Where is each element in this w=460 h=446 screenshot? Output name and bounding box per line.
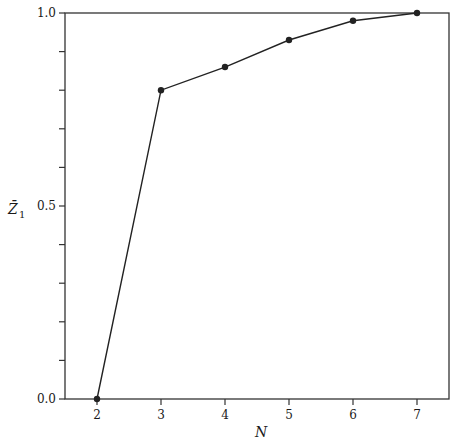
data-point-marker	[350, 18, 356, 24]
y-axis-label-main: Z̄	[7, 200, 18, 217]
data-point-marker	[158, 87, 164, 93]
x-tick-label: 4	[221, 408, 229, 422]
y-axis-label: Z̄ 1	[7, 200, 25, 220]
data-point-marker	[222, 64, 228, 70]
data-series	[94, 10, 420, 402]
data-point-marker	[286, 37, 292, 43]
series-line	[97, 13, 417, 399]
plot-frame	[65, 13, 449, 399]
x-tick-label: 3	[157, 408, 165, 422]
x-axis-ticks: 234567	[93, 399, 421, 422]
x-tick-label: 7	[413, 408, 421, 422]
y-tick-label: 0.0	[37, 392, 56, 406]
y-axis-ticks: 0.00.51.0	[37, 6, 65, 406]
x-tick-label: 6	[349, 408, 357, 422]
x-tick-label: 2	[93, 408, 101, 422]
x-tick-label: 5	[285, 408, 293, 422]
data-point-marker	[94, 396, 100, 402]
x-axis-label: N	[254, 424, 268, 440]
y-tick-label: 1.0	[37, 6, 56, 20]
data-point-marker	[414, 10, 420, 16]
y-tick-label: 0.5	[37, 199, 56, 213]
line-chart: 0.00.51.0 234567 N Z̄ 1	[0, 0, 460, 446]
y-axis-label-subscript: 1	[19, 209, 25, 220]
